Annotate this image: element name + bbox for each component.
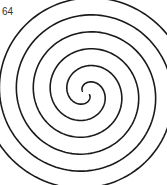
spiral-arm-2 (0, 15, 167, 185)
double-spiral-drawing (0, 0, 167, 185)
